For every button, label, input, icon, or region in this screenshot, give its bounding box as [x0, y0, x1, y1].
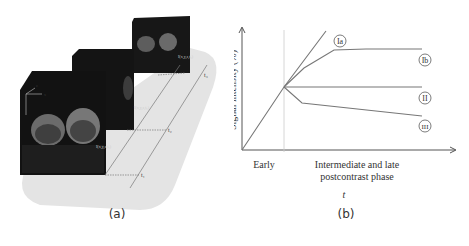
caption-a: (a)	[97, 207, 137, 221]
mri-frame-1: x z	[20, 71, 106, 175]
curve-label-Ib: Ib	[419, 54, 431, 66]
svg-text:x: x	[44, 92, 46, 97]
phase-late-label-2: postcontrast phase	[320, 171, 394, 182]
curve-label-Ia: Ia	[334, 35, 346, 47]
svg-text:II: II	[422, 94, 428, 103]
chart-axes	[239, 27, 456, 153]
svg-text:z: z	[36, 83, 38, 88]
svg-text:III: III	[422, 123, 430, 131]
y-axis-label: Signal intensity (%)	[234, 50, 239, 130]
panel-a-mri-stack: x z t₃ t₂ t₁ I(x,y,z,t₃) I(x,y,z,t₂) I(x…	[0, 0, 234, 246]
time-label-t2: t₂	[168, 127, 172, 133]
phase-late-label-1: Intermediate and late	[315, 159, 400, 170]
curve-Ib	[284, 49, 422, 87]
curve-label-III: III	[419, 120, 431, 132]
caption-b: (b)	[326, 207, 366, 221]
time-label-t1: t₃	[204, 72, 208, 78]
svg-text:Ia: Ia	[337, 37, 344, 46]
panel-b-kinetic-curves: Ia Ib II III Signal intensity (%) Early …	[234, 0, 469, 246]
curves	[242, 31, 422, 150]
curve-label-II: II	[419, 92, 431, 104]
mri-frame-3	[132, 16, 190, 73]
svg-text:Ib: Ib	[422, 56, 429, 65]
phase-early-label: Early	[253, 159, 275, 170]
x-axis-label: t	[343, 189, 346, 200]
curve-III	[284, 87, 422, 116]
time-label-t3: t₁	[141, 172, 145, 178]
